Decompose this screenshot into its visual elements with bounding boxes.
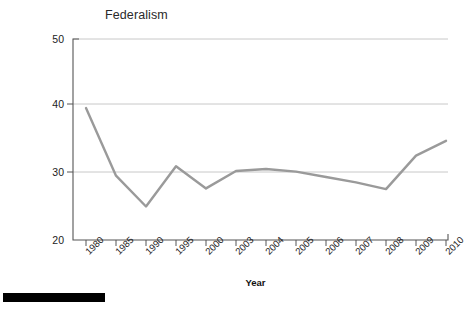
ytick-label-50: 50: [38, 33, 64, 45]
x-axis-title: Year: [0, 277, 471, 288]
ytick-label-40: 40: [38, 98, 64, 110]
plot-area: [0, 0, 471, 311]
footer-black-bar: [3, 293, 105, 302]
data-series-line: [86, 108, 446, 206]
y-axis-ticks: [67, 104, 73, 172]
ytick-label-20: 20: [38, 234, 64, 246]
ytick-label-30: 30: [38, 166, 64, 178]
gridlines: [73, 39, 448, 172]
chart-figure: Federalism Federal Grants-in-Aid as Perc…: [0, 0, 471, 311]
axis-frame: [73, 39, 448, 240]
